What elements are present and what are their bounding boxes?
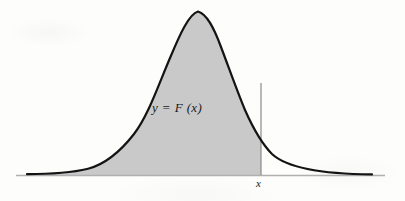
bell-curve-figure: y = F (x) x — [0, 0, 405, 201]
curve-equation-label: y = F (x) — [152, 100, 202, 116]
shaded-area-under-curve — [27, 12, 261, 176]
x-axis-point-label: x — [256, 177, 261, 189]
bell-curve-plot — [0, 0, 405, 201]
